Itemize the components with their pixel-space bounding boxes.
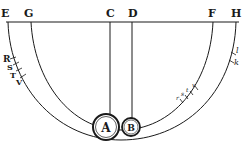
label-E: E [1, 7, 9, 20]
label-H: H [231, 7, 241, 20]
bob-B-label: B [127, 123, 135, 133]
bob-B: B [122, 118, 140, 136]
outer-arc [8, 22, 236, 140]
mark-s: s [181, 90, 184, 97]
label-F: F [208, 7, 216, 20]
bob-A-label: A [100, 121, 111, 135]
mark-V: V [15, 77, 23, 87]
inner-arc [31, 22, 213, 130]
label-D: D [128, 7, 138, 20]
label-G: G [24, 7, 33, 20]
label-C: C [106, 7, 115, 20]
mark-l: l [236, 46, 239, 55]
mark-r: r [176, 94, 180, 101]
mark-k: k [234, 58, 239, 67]
pendulum-diagram: E G C D F H R S T V r s t v l k A [0, 0, 246, 152]
mark-t: t [186, 86, 189, 93]
bob-A: A [93, 114, 119, 140]
